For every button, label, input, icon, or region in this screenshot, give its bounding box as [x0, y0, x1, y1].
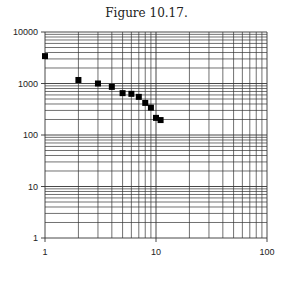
y-tick-label: 10: [28, 182, 38, 192]
y-tick-label: 100: [23, 130, 38, 140]
x-tick-label: 10: [151, 247, 161, 257]
data-point-marker: [95, 81, 101, 87]
x-tick-label: 100: [259, 247, 274, 257]
data-point-marker: [128, 91, 134, 97]
data-point-marker: [42, 53, 48, 59]
data-point-marker: [148, 105, 154, 111]
data-point-marker: [158, 117, 164, 123]
y-tick-label: 10000: [13, 27, 38, 37]
data-point-marker: [75, 77, 81, 83]
x-tick-label: 1: [42, 247, 47, 257]
data-point-marker: [142, 100, 148, 106]
chart-plot: 110100100010000110100: [0, 0, 293, 282]
data-point-marker: [109, 84, 115, 90]
y-tick-label: 1: [33, 233, 38, 243]
y-tick-label: 1000: [18, 79, 38, 89]
data-point-marker: [136, 94, 142, 100]
data-point-marker: [120, 90, 126, 96]
